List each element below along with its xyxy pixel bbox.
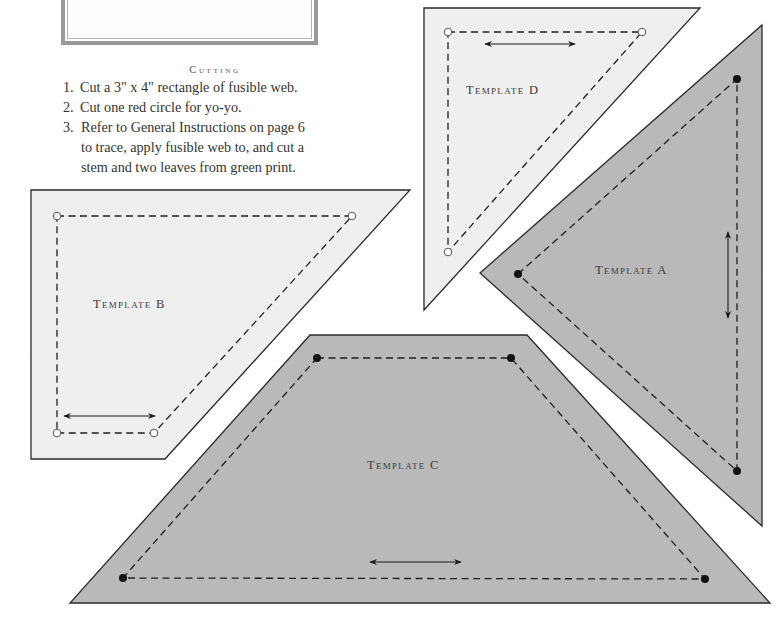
filled-corner-dot-icon	[507, 354, 515, 362]
open-corner-dot-icon	[444, 248, 452, 256]
open-corner-dot-icon	[348, 212, 356, 220]
filled-corner-dot-icon	[313, 354, 321, 362]
open-corner-dot-icon	[638, 28, 646, 36]
open-corner-dot-icon	[53, 429, 61, 437]
filled-corner-dot-icon	[701, 575, 709, 583]
template-b-label: Template B	[93, 297, 166, 312]
filled-corner-dot-icon	[733, 467, 741, 475]
open-corner-dot-icon	[150, 429, 158, 437]
open-corner-dot-icon	[53, 212, 61, 220]
templates-diagram	[0, 0, 777, 634]
filled-corner-dot-icon	[514, 270, 522, 278]
filled-corner-dot-icon	[733, 75, 741, 83]
template-c-label: Template C	[367, 458, 440, 473]
filled-corner-dot-icon	[119, 574, 127, 582]
template-d-label: Template D	[466, 83, 539, 98]
open-corner-dot-icon	[444, 28, 452, 36]
template-a-label: Template A	[595, 263, 668, 278]
